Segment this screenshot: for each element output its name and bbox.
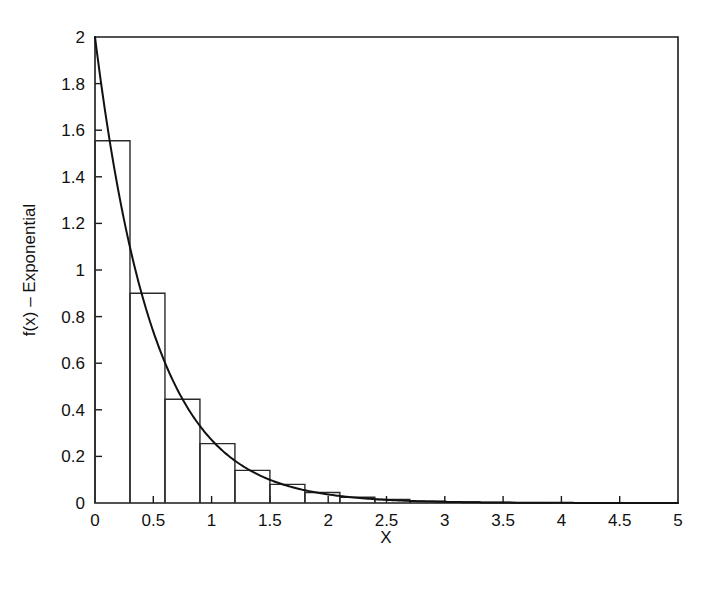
- exponential-pdf-curve: [95, 37, 678, 503]
- y-tick-label: 0.6: [61, 354, 85, 373]
- x-tick-label: 1: [207, 511, 216, 530]
- y-tick-label: 0: [76, 494, 85, 513]
- x-tick-label: 4.5: [608, 511, 632, 530]
- x-tick-label: 2: [323, 511, 332, 530]
- histogram-bar: [270, 484, 305, 503]
- y-tick-label: 1.4: [61, 168, 85, 187]
- histogram-bars: [95, 141, 550, 503]
- y-tick-label: 1: [76, 261, 85, 280]
- y-axis-tick-marks: [95, 84, 102, 457]
- histogram-bar: [200, 444, 235, 503]
- x-tick-label: 0: [90, 511, 99, 530]
- x-tick-label: 5: [673, 511, 682, 530]
- y-axis-title: f(x) – Exponential: [20, 204, 39, 336]
- x-tick-label: 3: [440, 511, 449, 530]
- histogram-bar: [130, 293, 165, 503]
- histogram-bar: [235, 470, 270, 503]
- y-tick-label: 0.8: [61, 308, 85, 327]
- y-tick-label: 0.2: [61, 447, 85, 466]
- x-tick-label: 1.5: [258, 511, 282, 530]
- plot-frame: [95, 37, 678, 503]
- x-tick-label: 3.5: [491, 511, 515, 530]
- histogram-bar: [95, 141, 130, 503]
- y-tick-label: 2: [76, 28, 85, 47]
- exponential-distribution-chart: 00.511.522.533.544.55 00.20.40.60.811.21…: [0, 0, 713, 589]
- x-tick-label: 0.5: [141, 511, 165, 530]
- histogram-bar: [165, 399, 200, 503]
- x-axis-title: X: [380, 528, 391, 547]
- y-tick-label: 1.2: [61, 214, 85, 233]
- x-tick-label: 4: [557, 511, 566, 530]
- y-tick-label: 0.4: [61, 401, 85, 420]
- y-axis-tick-labels: 00.20.40.60.811.21.41.61.82: [61, 28, 85, 513]
- y-tick-label: 1.8: [61, 75, 85, 94]
- y-tick-label: 1.6: [61, 121, 85, 140]
